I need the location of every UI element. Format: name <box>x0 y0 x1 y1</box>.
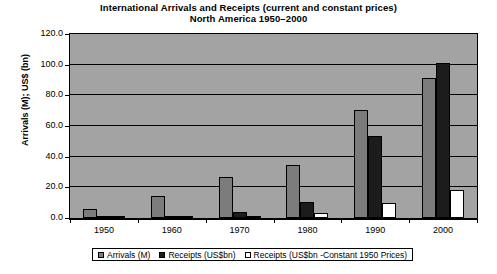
x-axis-tick-mark <box>70 219 71 223</box>
y-axis-tick-label: 0.0 <box>20 212 63 222</box>
legend-item-1[interactable]: Receipts (US$bn) <box>159 250 235 260</box>
y-axis-tick-mark <box>65 126 69 127</box>
bar-1960-series-0[interactable] <box>151 196 165 218</box>
bar-group-2000 <box>422 34 464 218</box>
x-axis-tick-mark <box>138 219 139 223</box>
bar-1980-series-1[interactable] <box>300 202 314 218</box>
bar-group-1950 <box>83 34 125 218</box>
y-axis-tick-label: 100.0 <box>20 59 63 69</box>
bar-1950-series-2[interactable] <box>111 216 125 218</box>
y-axis-tick-label: 60.0 <box>20 120 63 130</box>
bar-group-1990 <box>354 34 396 218</box>
x-axis-tick-mark <box>477 219 478 223</box>
chart-container: International Arrivals and Receipts (cur… <box>0 0 497 274</box>
legend-item-0[interactable]: Arrivals (M) <box>98 250 150 260</box>
bar-1970-series-1[interactable] <box>233 212 247 218</box>
y-axis-tick-mark <box>65 95 69 96</box>
bar-2000-series-0[interactable] <box>422 78 436 218</box>
legend-label: Receipts (US$bn -Constant 1950 Prices) <box>254 250 408 260</box>
bar-1970-series-2[interactable] <box>247 216 261 218</box>
x-axis-tick-label-1960: 1960 <box>142 225 202 235</box>
legend-swatch-icon <box>245 252 251 258</box>
y-axis-tick-mark <box>65 187 69 188</box>
bars-layer <box>70 34 477 218</box>
chart-title: International Arrivals and Receipts (cur… <box>0 2 497 24</box>
x-axis-tick-label-1990: 1990 <box>345 225 405 235</box>
x-axis-tick-mark <box>274 219 275 223</box>
bar-1960-series-2[interactable] <box>179 216 193 218</box>
y-axis-tick-mark <box>65 34 69 35</box>
chart-title-line2: North America 1950–2000 <box>0 13 497 24</box>
x-axis-tick-label-2000: 2000 <box>413 225 473 235</box>
legend-label: Receipts (US$bn) <box>168 250 235 260</box>
bar-1970-series-0[interactable] <box>219 177 233 218</box>
bar-2000-series-2[interactable] <box>450 190 464 218</box>
bar-2000-series-1[interactable] <box>436 63 450 218</box>
bar-group-1970 <box>219 34 261 218</box>
x-axis-tick-label-1970: 1970 <box>210 225 270 235</box>
y-axis-tick-label: 20.0 <box>20 181 63 191</box>
x-axis-tick-mark <box>409 219 410 223</box>
x-axis-tick-mark <box>341 219 342 223</box>
chart-title-line1: International Arrivals and Receipts (cur… <box>0 2 497 13</box>
x-axis-tick-mark <box>206 219 207 223</box>
y-axis-tick-label: 120.0 <box>20 28 63 38</box>
bar-group-1980 <box>286 34 328 218</box>
legend-label: Arrivals (M) <box>107 250 150 260</box>
y-axis-tick-mark <box>65 65 69 66</box>
legend-item-2[interactable]: Receipts (US$bn -Constant 1950 Prices) <box>245 250 408 260</box>
legend-swatch-icon <box>159 252 165 258</box>
y-axis-title: Arrivals (M); US$ (bn) <box>20 35 30 165</box>
legend-swatch-icon <box>98 252 104 258</box>
bar-1960-series-1[interactable] <box>165 216 179 218</box>
bar-group-1960 <box>151 34 193 218</box>
y-axis-tick-label: 80.0 <box>20 89 63 99</box>
y-axis-tick-mark <box>65 157 69 158</box>
bar-1990-series-0[interactable] <box>354 110 368 218</box>
bar-1980-series-0[interactable] <box>286 165 300 218</box>
y-axis-tick-label: 40.0 <box>20 151 63 161</box>
bar-1980-series-2[interactable] <box>314 213 328 218</box>
chart-legend: Arrivals (M)Receipts (US$bn)Receipts (US… <box>92 248 413 261</box>
bar-1950-series-0[interactable] <box>83 209 97 219</box>
bar-1990-series-1[interactable] <box>368 136 382 218</box>
x-axis-tick-label-1950: 1950 <box>74 225 134 235</box>
bar-1950-series-1[interactable] <box>97 216 111 218</box>
x-axis-tick-label-1980: 1980 <box>277 225 337 235</box>
bar-1990-series-2[interactable] <box>382 203 396 218</box>
